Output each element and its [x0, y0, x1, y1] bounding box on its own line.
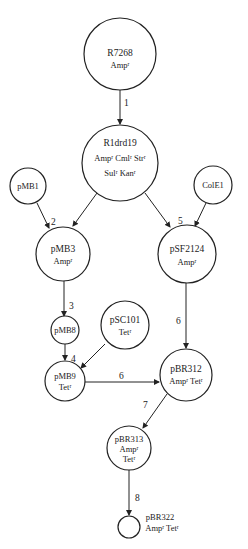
node-cole1: ColE1 [194, 166, 232, 204]
node-pbr322: pBR322 Ampʳ Tetʳ [118, 512, 179, 538]
edge-r1drd19-pmb3 [73, 193, 97, 226]
step-label-5: 5 [178, 216, 183, 226]
node-pbr313-name: pBR313 [115, 434, 143, 444]
node-psc101-name: pSC101 [110, 315, 141, 325]
edge-r1drd19-psf2124 [145, 193, 170, 227]
node-pmb3: pMB3 Ampʳ [36, 227, 90, 281]
node-pbr313: pBR313 Ampʳ Tetʳ [107, 426, 151, 470]
node-pmb3-name: pMB3 [51, 244, 76, 254]
step-label-1: 1 [124, 98, 129, 108]
node-pmb9: pMB9 Tetʳ [45, 361, 85, 401]
node-r1drd19-name: R1drd19 [103, 138, 137, 148]
node-pmb8: pMB8 [51, 316, 79, 344]
node-r7268: R7268 Ampʳ [84, 18, 156, 90]
node-r1drd19-markers-line2: Sulʳ Kanʳ [104, 168, 135, 178]
edge-cole1-psf2124 [195, 203, 206, 226]
node-pmb1-name: pMB1 [17, 181, 39, 191]
step-label-6-vertical: 6 [176, 316, 181, 326]
node-pmb9-markers: Tetʳ [59, 382, 72, 392]
node-psc101: pSC101 Tetʳ [101, 301, 149, 349]
node-r1drd19: R1drd19 Ampʳ Cmlʳ Strʳ Sulʳ Kanʳ [82, 125, 158, 201]
node-psf2124-markers: Ampʳ [178, 257, 197, 267]
node-pbr322-name: pBR322 [146, 512, 174, 522]
node-pbr313-markers-line2: Tetʳ [123, 454, 136, 464]
node-pmb9-name: pMB9 [54, 371, 76, 381]
node-pbr312: pBR312 Ampʳ Tetʳ [160, 349, 212, 401]
step-label-7: 7 [143, 400, 148, 410]
node-r7268-name: R7268 [107, 48, 133, 58]
node-pmb8-name: pMB8 [54, 325, 76, 335]
edge-psc101-pmb9 [81, 344, 105, 368]
node-psf2124-name: pSF2124 [170, 244, 205, 254]
step-label-2: 2 [51, 217, 56, 227]
plasmid-lineage-diagram: 1 2 5 3 4 6 6 7 8 R7268 Ampʳ R1drd19 Amp… [0, 0, 248, 549]
node-pbr312-name: pBR312 [170, 364, 202, 374]
edge-pmb1-pmb3 [37, 203, 49, 228]
node-r7268-markers: Ampʳ [111, 60, 130, 70]
node-cole1-name: ColE1 [202, 180, 224, 190]
step-label-8: 8 [135, 493, 140, 503]
step-label-3: 3 [69, 301, 74, 311]
node-pbr313-markers-line1: Ampʳ [120, 444, 139, 454]
node-r1drd19-markers-line1: Ampʳ Cmlʳ Strʳ [94, 153, 146, 163]
node-psf2124: pSF2124 Ampʳ [158, 225, 216, 283]
node-psc101-markers: Tetʳ [119, 327, 132, 337]
node-pmb3-markers: Ampʳ [54, 256, 73, 266]
node-pmb1: pMB1 [10, 168, 46, 204]
step-label-6-horizontal: 6 [119, 371, 124, 381]
node-pbr312-markers: Ampʳ Tetʳ [169, 376, 203, 386]
node-pbr322-markers: Ampʳ Tetʳ [145, 523, 179, 533]
